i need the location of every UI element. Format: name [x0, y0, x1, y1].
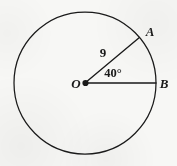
- label-central-angle: 40°: [104, 66, 122, 80]
- center-point-dot: [82, 80, 88, 86]
- label-point-b: B: [159, 76, 169, 91]
- geometry-canvas: O A B 9 40°: [0, 0, 177, 166]
- label-point-a: A: [145, 24, 155, 39]
- label-radius-length: 9: [100, 45, 107, 60]
- geometry-figure: O A B 9 40°: [0, 0, 177, 166]
- label-center-o: O: [71, 76, 81, 91]
